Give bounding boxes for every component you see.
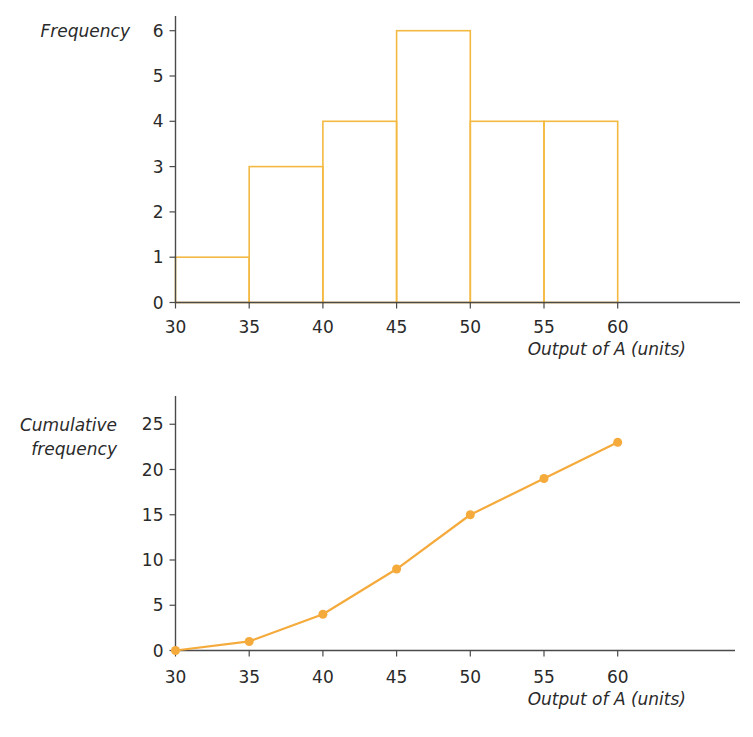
- y-tick-label: 1: [153, 247, 164, 267]
- histogram-bar: [397, 31, 471, 303]
- y-axis-title-line1: Cumulative: [20, 415, 117, 435]
- x-tick-label: 45: [386, 317, 408, 337]
- x-tick-label: 40: [312, 667, 334, 687]
- y-tick-label: 5: [153, 595, 164, 615]
- data-point-marker: [171, 646, 180, 655]
- x-tick-label: 60: [607, 317, 629, 337]
- x-tick-label: 50: [459, 667, 481, 687]
- x-tick-label: 50: [459, 317, 481, 337]
- x-axis-title: Output of A (units): [528, 339, 686, 359]
- histogram-chart: 012345630354045505560FrequencyOutput of …: [41, 16, 740, 359]
- y-axis-title: Frequency: [41, 21, 131, 41]
- x-tick-label: 35: [238, 317, 260, 337]
- data-point-marker: [245, 637, 254, 646]
- y-tick-label: 4: [153, 111, 164, 131]
- histogram-bar: [323, 121, 397, 302]
- histogram-bar: [249, 167, 323, 303]
- x-tick-label: 55: [533, 317, 555, 337]
- y-tick-label: 2: [153, 202, 164, 222]
- x-tick-label: 40: [312, 317, 334, 337]
- x-tick-label: 35: [238, 667, 260, 687]
- x-tick-label: 45: [386, 667, 408, 687]
- x-tick-label: 60: [607, 667, 629, 687]
- y-axis-title-line2: frequency: [31, 439, 118, 459]
- y-tick-label: 20: [142, 460, 164, 480]
- y-tick-label: 6: [153, 21, 164, 41]
- y-tick-label: 10: [142, 550, 164, 570]
- x-tick-label: 55: [533, 667, 555, 687]
- data-point-marker: [318, 610, 327, 619]
- data-point-marker: [466, 510, 475, 519]
- x-axis-title: Output of A (units): [528, 689, 686, 709]
- cumulative-frequency-chart: 051015202530354045505560Cumulativefreque…: [20, 396, 735, 709]
- y-tick-label: 5: [153, 66, 164, 86]
- cumulative-line: [176, 442, 618, 650]
- x-tick-label: 30: [165, 667, 187, 687]
- histogram-bar: [176, 257, 250, 302]
- y-tick-label: 15: [142, 505, 164, 525]
- x-tick-label: 30: [165, 317, 187, 337]
- data-point-marker: [613, 438, 622, 447]
- histogram-bar: [544, 121, 618, 302]
- figure: 012345630354045505560FrequencyOutput of …: [0, 0, 753, 737]
- y-tick-label: 0: [153, 293, 164, 313]
- y-tick-label: 0: [153, 641, 164, 661]
- y-tick-label: 3: [153, 157, 164, 177]
- y-tick-label: 25: [142, 414, 164, 434]
- data-point-marker: [540, 474, 549, 483]
- data-point-marker: [392, 565, 401, 574]
- histogram-bar: [470, 121, 544, 302]
